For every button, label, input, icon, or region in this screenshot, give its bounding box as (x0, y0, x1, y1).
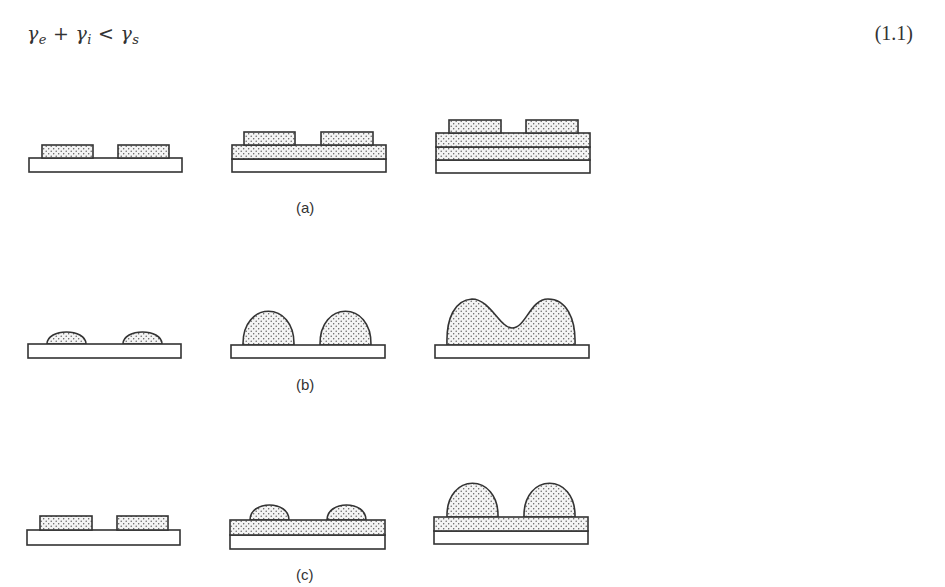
row-b-panel-3 (435, 299, 589, 358)
row-c-panel-1 (27, 516, 180, 545)
substrate (29, 158, 182, 172)
film-layer (232, 145, 386, 159)
substrate (434, 531, 588, 544)
film-dome (320, 311, 371, 345)
film-dome (524, 483, 575, 517)
film-cap (250, 505, 289, 520)
label-a: (a) (296, 199, 314, 216)
film-cap (47, 332, 86, 344)
film-island (526, 120, 578, 133)
row-a-panel-1 (29, 145, 182, 172)
film-island (118, 145, 169, 158)
label-c: (c) (296, 566, 314, 583)
film-dome (447, 483, 498, 517)
substrate (230, 535, 385, 549)
row-a-panel-3 (436, 120, 590, 173)
film-island (117, 516, 168, 530)
substrate (436, 160, 590, 173)
film-layer (436, 133, 590, 147)
film-island (40, 516, 92, 530)
film-cap (123, 332, 162, 344)
film-layer (230, 520, 385, 535)
row-b-panel-2 (231, 311, 385, 358)
row-a-panel-2 (232, 132, 386, 172)
film-island (449, 120, 501, 133)
row-c-panel-3 (434, 483, 588, 544)
film-layer (434, 517, 588, 531)
film-dome (243, 311, 294, 345)
film-island (42, 145, 93, 158)
substrate (231, 345, 385, 358)
growth-modes-figure (0, 0, 945, 587)
film-cap (327, 505, 366, 520)
film-island (244, 132, 295, 145)
substrate (232, 159, 386, 172)
label-b: (b) (296, 376, 314, 393)
film-island (321, 132, 373, 145)
substrate (28, 344, 181, 358)
film-layer (436, 147, 590, 160)
row-b-panel-1 (28, 332, 181, 358)
substrate (27, 530, 180, 545)
row-c-panel-2 (230, 505, 385, 549)
substrate (435, 345, 589, 358)
coalesced-film (447, 299, 575, 345)
